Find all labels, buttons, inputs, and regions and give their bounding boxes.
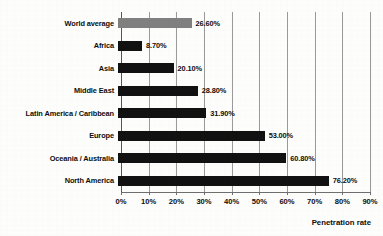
x-tick-mark	[315, 192, 316, 195]
x-tick-mark	[342, 192, 343, 195]
x-tick-label: 60%	[279, 197, 294, 206]
bar-value-label: 76.20%	[333, 176, 357, 185]
category-label: Oceania / Australia	[0, 154, 118, 163]
x-axis-title: Penetration rate	[0, 218, 371, 227]
x-tick-label: 50%	[252, 197, 267, 206]
bar-value-label: 20.10%	[178, 64, 202, 73]
bar-track: 28.80%	[118, 80, 383, 103]
x-tick-mark	[287, 192, 288, 195]
bar-value-label: 8.70%	[146, 41, 166, 50]
bar	[118, 131, 265, 141]
bar	[118, 86, 198, 96]
category-label: World average	[0, 19, 118, 28]
bar-row: Middle East28.80%	[0, 80, 383, 103]
x-tick-mark	[259, 192, 260, 195]
bar-row: Africa8.70%	[0, 35, 383, 58]
x-tick-mark	[370, 192, 371, 195]
x-tick-mark	[204, 192, 205, 195]
bar-value-label: 28.80%	[202, 86, 226, 95]
category-label: North America	[0, 176, 118, 185]
bar	[118, 153, 286, 163]
penetration-rate-bar-chart: World average26.60%Africa8.70%Asia20.10%…	[0, 0, 383, 236]
bar	[118, 63, 174, 73]
bar-track: 31.90%	[118, 102, 383, 125]
bar-track: 76.20%	[118, 170, 383, 193]
bar-value-label: 60.80%	[290, 154, 314, 163]
bar-value-label: 26.60%	[196, 19, 220, 28]
x-tick-label: 90%	[362, 197, 377, 206]
bar	[118, 18, 192, 28]
x-tick-label: 0%	[116, 197, 127, 206]
x-tick-label: 70%	[307, 197, 322, 206]
bar-value-label: 53.00%	[269, 131, 293, 140]
bar-track: 53.00%	[118, 125, 383, 148]
category-label: Middle East	[0, 86, 118, 95]
x-tick-label: 10%	[141, 197, 156, 206]
bar-track: 60.80%	[118, 147, 383, 170]
category-label: Africa	[0, 41, 118, 50]
x-axis-line	[121, 192, 370, 193]
bar-track: 20.10%	[118, 57, 383, 80]
bar-rows: World average26.60%Africa8.70%Asia20.10%…	[0, 12, 383, 192]
x-tick-label: 40%	[224, 197, 239, 206]
bar-row: North America76.20%	[0, 170, 383, 193]
x-tick-mark	[232, 192, 233, 195]
bar-row: World average26.60%	[0, 12, 383, 35]
bar	[118, 41, 142, 51]
bar-track: 8.70%	[118, 35, 383, 58]
bar-value-label: 31.90%	[210, 109, 234, 118]
x-tick-mark	[121, 192, 122, 195]
x-tick-label: 20%	[169, 197, 184, 206]
category-label: Asia	[0, 64, 118, 73]
x-tick-label: 80%	[335, 197, 350, 206]
bar	[118, 108, 206, 118]
category-label: Latin America / Caribbean	[0, 109, 118, 118]
x-tick-label: 30%	[196, 197, 211, 206]
bar-row: Asia20.10%	[0, 57, 383, 80]
bar-row: Europe53.00%	[0, 125, 383, 148]
x-tick-mark	[176, 192, 177, 195]
bar-row: Latin America / Caribbean31.90%	[0, 102, 383, 125]
bar-row: Oceania / Australia60.80%	[0, 147, 383, 170]
bar	[118, 176, 329, 186]
bar-track: 26.60%	[118, 12, 383, 35]
x-tick-mark	[149, 192, 150, 195]
category-label: Europe	[0, 131, 118, 140]
